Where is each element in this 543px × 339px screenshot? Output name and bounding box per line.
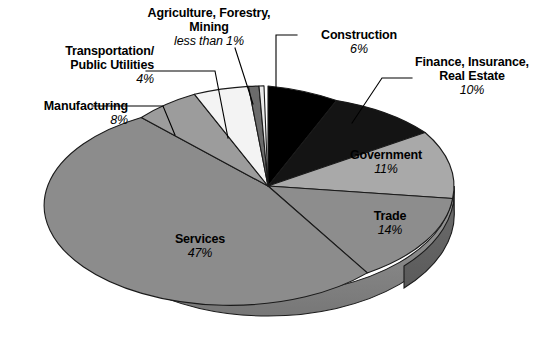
slice-label-services: Services 47% [152,232,248,260]
slice-label-value: 6% [300,42,418,56]
slice-label-text-line1: Transportation/ [6,44,154,58]
slice-label-text-line2: Mining [132,20,286,34]
slice-label-text-line1: Manufacturing [2,99,128,113]
slice-label-value: 8% [2,113,128,127]
slice-label-value: 47% [152,246,248,260]
slice-label-text-line2: Real Estate [404,69,540,83]
slice-label-text-line1: Trade [355,209,425,223]
slice-label-text-line1: Finance, Insurance, [404,55,540,69]
slice-label-text-line1: Construction [300,28,418,42]
slice-label-agriculture-forestry-mining: Agriculture, Forestry, Mining less than … [132,6,286,48]
slice-label-construction: Construction 6% [300,28,418,56]
slice-label-value: 11% [333,162,439,176]
slice-label-text-line1: Services [152,232,248,246]
slice-label-text-line1: Agriculture, Forestry, [132,6,286,20]
slice-label-government: Government 11% [333,148,439,176]
slice-label-finance-insurance-real-estate: Finance, Insurance, Real Estate 10% [404,55,540,97]
slice-label-transportation-public-utilities: Transportation/ Public Utilities 4% [6,44,154,86]
slice-label-value: 4% [6,72,154,86]
pie-chart-figure: Agriculture, Forestry, Mining less than … [0,0,543,339]
slice-label-trade: Trade 14% [355,209,425,237]
slice-label-text-line1: Government [333,148,439,162]
slice-label-manufacturing: Manufacturing 8% [2,99,128,127]
slice-label-value: 10% [404,83,540,97]
slice-label-value: less than 1% [132,34,286,48]
slice-label-value: 14% [355,223,425,237]
slice-label-text-line2: Public Utilities [6,58,154,72]
